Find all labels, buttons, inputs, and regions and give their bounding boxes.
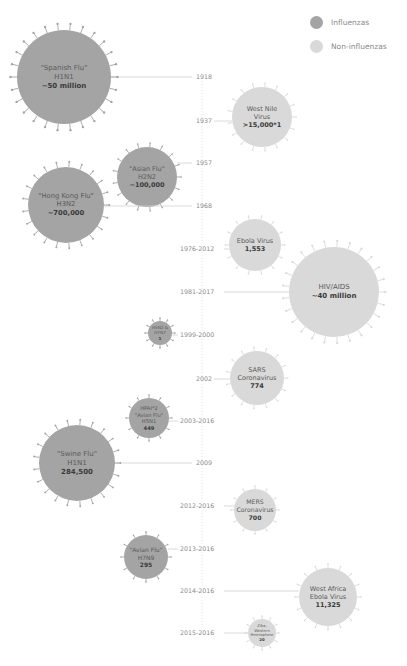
death-count: 700 (236, 514, 273, 522)
virus-label: "Hong Kong Flu"H3N2~700,000 (38, 192, 93, 217)
virus-label: H5N2 &H7N71 (152, 325, 168, 341)
virus-name-line: "Swine Flu" (57, 450, 97, 459)
virus-label: West AfricaEbola Virus11,325 (310, 585, 347, 609)
death-count: 284,500 (57, 467, 97, 476)
virus-name-line: H7N9 (130, 553, 163, 561)
virus-label: Zika,WesternHemisphere20 (251, 624, 274, 643)
year-label: 2003-2016 (180, 417, 214, 424)
legend: Influenzas Non-influenzas (310, 14, 387, 62)
death-count: 20 (251, 638, 274, 643)
year-label: 2014-2016 (180, 587, 214, 594)
year-label: 1999-2000 (180, 331, 214, 338)
death-count: ~50 million (41, 81, 88, 90)
virus-name-line: Ebola Virus (237, 237, 273, 245)
year-label: 1937 (196, 117, 212, 124)
virus-name-line: H7N7 (152, 330, 168, 335)
virus-label: SARSCoronavirus774 (238, 366, 277, 390)
virus-name-line: West Africa (310, 585, 347, 593)
death-count: 449 (135, 425, 163, 432)
virus-name-line: H1N1 (57, 459, 97, 468)
virus-label: HIV/AIDS~40 million (312, 283, 357, 301)
year-label: 1957 (196, 159, 212, 166)
death-count: ~100,000 (129, 181, 164, 189)
virus-label: "Avian Flu"H7N9295 (130, 546, 163, 569)
virus-name-line: Coronavirus (236, 506, 273, 514)
virus-name-line: HIV/AIDS (312, 283, 357, 292)
virus-name-line: "Spanish Flu" (41, 64, 88, 73)
year-label: 2009 (196, 459, 212, 466)
virus-label: "Spanish Flu"H1N1~50 million (41, 64, 88, 90)
year-label: 1981-2017 (180, 288, 214, 295)
virus-label: HPAI*2"Avian Flu"H5N1449 (135, 405, 163, 431)
legend-item-non-influenzas: Non-influenzas (310, 38, 387, 54)
virus-name-line: "Asian Flu" (129, 165, 164, 173)
virus-name-line: H3N2 (38, 201, 93, 209)
virus-name-line: SARS (238, 366, 277, 374)
virus-name-line: "Hong Kong Flu" (38, 192, 93, 200)
virus-name-line: MERS (236, 498, 273, 506)
virus-label: "Swine Flu"H1N1284,500 (57, 450, 97, 476)
virus-name-line: H1N1 (41, 73, 88, 82)
virus-bubble (9, 23, 192, 132)
death-count: 1 (152, 336, 168, 341)
virus-name-line: Ebola Virus (310, 593, 347, 601)
legend-label-non-influenzas: Non-influenzas (331, 42, 387, 51)
virus-name-line: Coronavirus (238, 374, 277, 382)
virus-label: "Asian Flu"H2N2~100,000 (129, 165, 164, 189)
virus-name-line: "Avian Flu" (130, 546, 163, 554)
non-influenza-swatch-icon (310, 40, 323, 53)
death-count: 1,553 (237, 245, 273, 253)
virus-label: MERSCoronavirus700 (236, 498, 273, 521)
death-count: ~40 million (312, 292, 357, 301)
virus-name-line: West Nile (243, 105, 281, 113)
death-count: >15,000*1 (243, 121, 281, 129)
virus-label: Ebola Virus1,553 (237, 237, 273, 253)
year-label: 2012-2016 (180, 502, 214, 509)
death-count: 11,325 (310, 601, 347, 609)
year-label: 1918 (196, 73, 212, 80)
year-label: 1968 (196, 202, 212, 209)
death-count: ~700,000 (38, 209, 93, 217)
virus-name-line: Virus (243, 113, 281, 121)
death-count: 774 (238, 382, 277, 390)
influenza-swatch-icon (310, 16, 323, 29)
legend-item-influenzas: Influenzas (310, 14, 387, 30)
year-label: 2015-2016 (180, 629, 214, 636)
legend-label-influenzas: Influenzas (331, 18, 369, 27)
year-label: 2002 (196, 375, 212, 382)
death-count: 295 (130, 561, 163, 569)
virus-name-line: H2N2 (129, 173, 164, 181)
year-label: 1976-2012 (180, 245, 214, 252)
year-label: 2013-2016 (180, 545, 214, 552)
virus-label: West NileVirus>15,000*1 (243, 105, 281, 129)
